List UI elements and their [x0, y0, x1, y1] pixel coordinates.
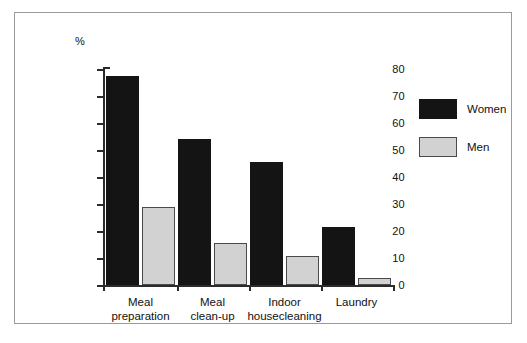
y-axis-tick-label: 30 [392, 198, 405, 210]
y-axis-tick-label: 0 [399, 279, 405, 291]
x-axis-category-label: Laundry [308, 295, 405, 309]
y-axis-tick-label: 80 [392, 63, 405, 75]
legend-label-men: Men [467, 141, 489, 153]
chart-legend: WomenMen [419, 99, 506, 175]
x-axis-line [103, 285, 393, 287]
y-axis-unit-label: % [75, 35, 85, 47]
legend-item-men: Men [419, 137, 506, 157]
y-axis-tick-label: 60 [392, 117, 405, 129]
plot-area: 01020304050607080 [103, 69, 415, 285]
legend-label-women: Women [467, 103, 506, 115]
bar-women-2 [250, 162, 283, 285]
y-axis-tick-label: 70 [392, 90, 405, 102]
y-axis-tick-label: 50 [392, 144, 405, 156]
bar-men-0 [142, 207, 175, 285]
bar-women-1 [178, 139, 211, 285]
bar-women-0 [106, 76, 139, 285]
x-axis-group-tick [177, 285, 179, 291]
x-axis-group-tick [393, 285, 395, 291]
legend-swatch-men [419, 137, 457, 157]
legend-swatch-women [419, 99, 457, 119]
y-axis-tick [97, 96, 103, 98]
bar-women-3 [322, 227, 355, 285]
y-axis-tick [97, 204, 103, 206]
y-axis-tick [97, 69, 103, 71]
x-axis-group-tick [321, 285, 323, 291]
bar-men-1 [214, 243, 247, 285]
x-axis-group-tick [249, 285, 251, 291]
y-axis-tick-label: 20 [392, 225, 405, 237]
y-axis-tick [97, 231, 103, 233]
legend-item-women: Women [419, 99, 506, 119]
y-axis-tick-label: 40 [392, 171, 405, 183]
y-axis-tick [97, 258, 103, 260]
bar-men-2 [286, 256, 319, 285]
y-axis-tick [97, 177, 103, 179]
x-axis-origin-tick [103, 285, 105, 291]
chart-figure: % 01020304050607080 Meal preparationMeal… [14, 12, 512, 324]
y-axis-tick [97, 123, 103, 125]
bar-men-3 [358, 278, 391, 285]
y-axis-tick [97, 150, 103, 152]
y-axis-tick-label: 10 [392, 252, 405, 264]
